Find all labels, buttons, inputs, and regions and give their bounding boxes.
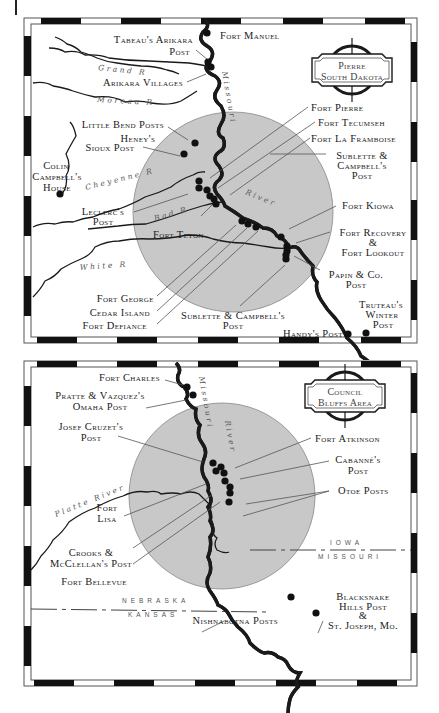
label-fort-bellevue: Fort Bellevue [61, 576, 127, 587]
map-pierre-south-dakota: Grand R Moreau R Cheyenne R Bad R White … [0, 0, 439, 360]
label-heney-line2: Sioux Post [85, 142, 134, 153]
label-pratte-line1: Pratte & Vazquez's [55, 390, 144, 401]
label-truteau-line3: Post [373, 319, 394, 330]
label-fort-tecumseh: Fort Tecumseh [318, 117, 385, 128]
label-fort-defiance: Fort Defiance [83, 320, 147, 331]
label-nishnabotna-posts: Nishnabotna Posts [193, 615, 278, 626]
label-st-joseph: St. Joseph, Mo. [328, 620, 398, 631]
label-crooks-line2: McClellan's Post [50, 558, 132, 569]
label-fort-teton: Fort Teton [153, 229, 204, 240]
label-otoe-posts: Otoe Posts [338, 485, 389, 496]
label-cabanne-line1: Cabanné's [335, 454, 381, 465]
label-cruzet-line1: Josef Cruzet's [59, 421, 124, 432]
area-circle [129, 403, 315, 589]
cartouche-title-line1: Council [327, 386, 362, 397]
label-fort-lisa-line2: Lisa [97, 513, 116, 524]
state-label-nebraska: NEBRASKA [122, 597, 189, 604]
cartouche-title-line1: Pierre [338, 60, 366, 71]
label-crooks-line1: Crooks & [69, 547, 114, 558]
label-fort-kiowa: Fort Kiowa [342, 200, 394, 211]
label-cedar-island: Cedar Island [90, 307, 150, 318]
label-fort-atkinson: Fort Atkinson [315, 433, 380, 444]
state-label-kansas: KANSAS [128, 611, 178, 618]
label-colin-line1: Colin [43, 160, 69, 171]
label-fort-charles: Fort Charles [99, 372, 160, 383]
label-papin-line2: Post [346, 279, 367, 290]
cartouche-title-line2: South Dakota [321, 71, 383, 82]
map-council-bluffs-area: NEBRASKA KANSAS IOWA MISSOURI Platte Riv… [0, 353, 439, 713]
state-label-iowa: IOWA [330, 539, 363, 546]
label-fort-la-framboise: Fort La Framboise [311, 133, 396, 144]
label-sublette-bottom-line2: Post [223, 320, 244, 331]
label-cabanne-line2: Post [348, 465, 369, 476]
label-sublette-right-line3: Post [352, 170, 373, 181]
label-colin-line3: House [43, 182, 71, 193]
label-fort-george: Fort George [97, 293, 154, 304]
label-handys-post: Handy's Post [283, 328, 343, 339]
label-little-bend-posts: Little Bend Posts [82, 119, 164, 130]
label-arikara-villages: Arikara Villages [103, 77, 183, 88]
label-pratte-line2: Omaha Post [73, 401, 128, 412]
label-colin-line2: Campbell's [32, 171, 81, 182]
label-tabeau-line1: Tabeau's Arikara [114, 34, 193, 45]
state-label-missouri: MISSOURI [318, 553, 382, 560]
label-leclerc-line2: Post [93, 216, 114, 227]
label-fort-lookout: Fort Lookout [342, 247, 405, 258]
label-fort-pierre: Fort Pierre [311, 102, 364, 113]
label-tabeau-line2: Post [169, 46, 190, 57]
label-fort-manuel: Fort Manuel [220, 30, 280, 41]
label-cruzet-line2: Post [81, 432, 102, 443]
label-fort-lisa-line1: Fort [96, 502, 117, 513]
cartouche-title-line2: Bluffs Area [318, 397, 372, 408]
